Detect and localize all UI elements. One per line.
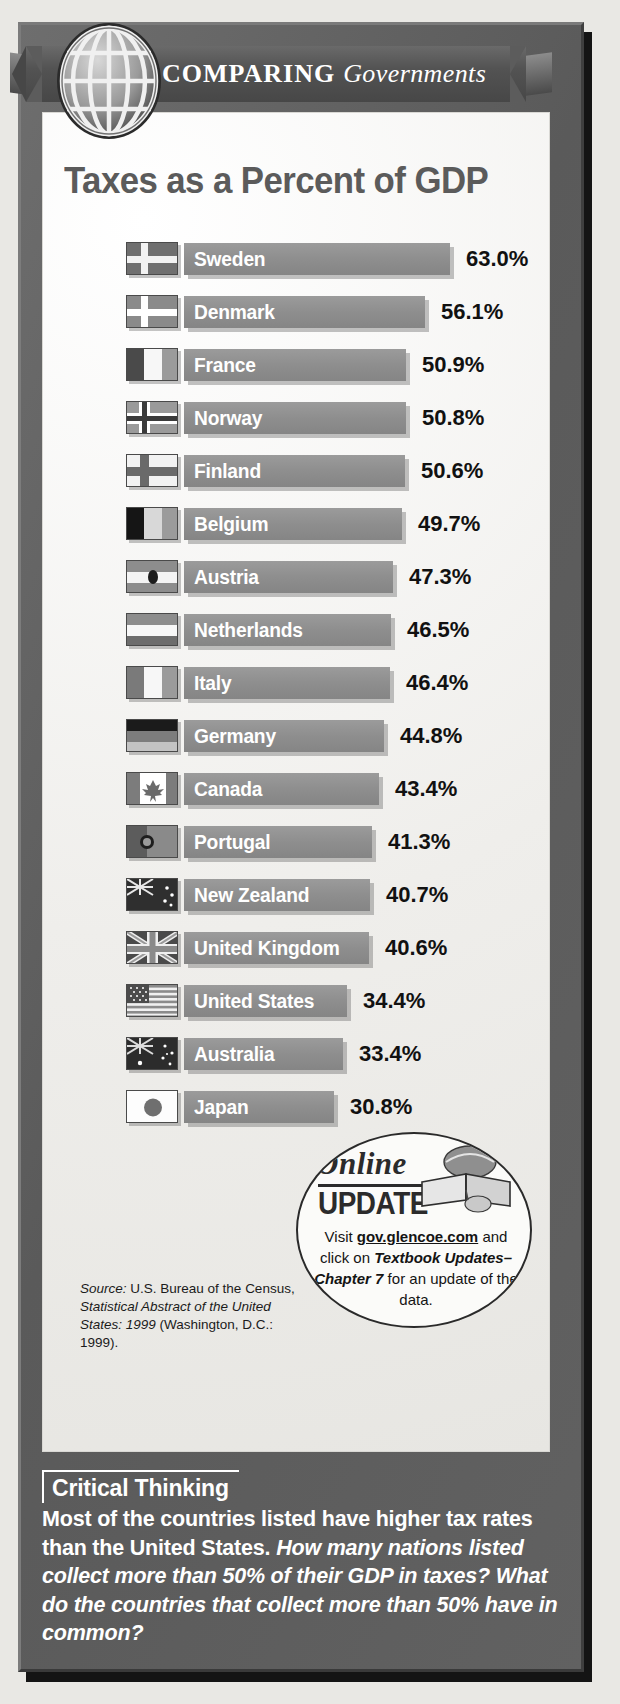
value-label: 46.4% — [406, 667, 468, 699]
source-note: Source: U.S. Bureau of the Census, Stati… — [80, 1280, 295, 1352]
country-label: Portugal — [194, 826, 270, 858]
value-label: 34.4% — [363, 985, 425, 1017]
flag-new-zealand-icon — [126, 878, 178, 911]
bar-chart: Sweden63.0%Denmark56.1%France50.9%Norway… — [42, 237, 550, 1138]
flag-finland-icon — [126, 454, 178, 487]
bar-row: Australia33.4% — [42, 1032, 550, 1085]
bar-row: Japan30.8% — [42, 1085, 550, 1138]
value-label: 40.7% — [386, 879, 448, 911]
country-label: Norway — [194, 402, 262, 434]
country-label: Sweden — [194, 243, 265, 275]
value-label: 50.6% — [421, 455, 483, 487]
value-label: 30.8% — [350, 1091, 412, 1123]
bar-row: United States34.4% — [42, 979, 550, 1032]
online-update-online-word: Online — [316, 1146, 407, 1182]
country-label: Germany — [194, 720, 276, 752]
flag-japan-icon — [126, 1090, 178, 1123]
value-label: 47.3% — [409, 561, 471, 593]
country-label: United Kingdom — [194, 932, 340, 964]
flag-austria-icon — [126, 560, 178, 593]
value-label: 44.8% — [400, 720, 462, 752]
flag-portugal-icon — [126, 825, 178, 858]
flag-germany-icon — [126, 719, 178, 752]
country-label: Canada — [194, 773, 262, 805]
country-label: New Zealand — [194, 879, 309, 911]
country-label: Belgium — [194, 508, 268, 540]
value-label: 49.7% — [418, 508, 480, 540]
country-label: Japan — [194, 1091, 249, 1123]
banner-title-sub: Governments — [343, 59, 486, 89]
banner-title: COMPARING Governments — [162, 46, 512, 102]
ribbon-tail-right — [526, 52, 552, 96]
country-label: France — [194, 349, 256, 381]
bar-row: Norway50.8% — [42, 396, 550, 449]
globe-icon — [53, 20, 165, 142]
bar-row: United Kingdom40.6% — [42, 926, 550, 979]
value-label: 40.6% — [385, 932, 447, 964]
flag-denmark-icon — [126, 295, 178, 328]
page-title: Taxes as a Percent of GDP — [64, 160, 488, 202]
online-update-badge[interactable]: Online UPDATE Visit gov.glencoe.com and … — [296, 1132, 532, 1328]
ou-text-post: for an update of the data. — [383, 1270, 517, 1308]
source-line2-plain: Census, — [245, 1281, 295, 1296]
open-book-icon — [416, 1144, 516, 1216]
country-label: Netherlands — [194, 614, 303, 646]
glencoe-link[interactable]: gov.glencoe.com — [357, 1228, 478, 1245]
bar-row: Germany44.8% — [42, 714, 550, 767]
value-label: 50.8% — [422, 402, 484, 434]
flag-italy-icon — [126, 666, 178, 699]
bar-row: New Zealand40.7% — [42, 873, 550, 926]
source-label: Source: — [80, 1281, 127, 1296]
online-update-update-word: UPDATE — [318, 1186, 428, 1222]
flag-netherlands-icon — [126, 613, 178, 646]
value-label: 41.3% — [388, 826, 450, 858]
ou-text-pre: Visit — [325, 1228, 357, 1245]
bar-row: Netherlands46.5% — [42, 608, 550, 661]
value-label: 56.1% — [441, 296, 503, 328]
banner-title-main: COMPARING — [162, 59, 335, 89]
ribbon-notch-left — [26, 46, 42, 102]
ribbon-notch-right — [510, 46, 526, 102]
bar-row: Italy46.4% — [42, 661, 550, 714]
source-line2-italic: Statistical Abstract — [80, 1299, 191, 1314]
country-label: United States — [194, 985, 314, 1017]
country-label: Finland — [194, 455, 261, 487]
flag-canada-icon — [126, 772, 178, 805]
bar-row: Canada43.4% — [42, 767, 550, 820]
flag-france-icon — [126, 348, 178, 381]
source-line1: U.S. Bureau of the — [127, 1281, 242, 1296]
value-label: 63.0% — [466, 243, 528, 275]
country-label: Australia — [194, 1038, 274, 1070]
flag-sweden-icon — [126, 242, 178, 275]
country-label: Austria — [194, 561, 259, 593]
country-label: Italy — [194, 667, 231, 699]
value-label: 43.4% — [395, 773, 457, 805]
bar-row: Finland50.6% — [42, 449, 550, 502]
bar-row: Denmark56.1% — [42, 290, 550, 343]
critical-thinking-headline: Critical Thinking — [42, 1470, 239, 1503]
bar-row: Belgium49.7% — [42, 502, 550, 555]
critical-thinking-section: Critical Thinking Most of the countries … — [28, 1462, 574, 1662]
bar-row: Sweden63.0% — [42, 237, 550, 290]
country-label: Denmark — [194, 296, 275, 328]
critical-thinking-body: Most of the countries listed have higher… — [42, 1505, 560, 1648]
value-label: 46.5% — [407, 614, 469, 646]
flag-belgium-icon — [126, 507, 178, 540]
flag-united-states-icon — [126, 984, 178, 1017]
bar-row: Portugal41.3% — [42, 820, 550, 873]
bar-row: Austria47.3% — [42, 555, 550, 608]
online-update-text: Visit gov.glencoe.com and click on Textb… — [310, 1226, 522, 1310]
value-label: 33.4% — [359, 1038, 421, 1070]
flag-norway-icon — [126, 401, 178, 434]
flag-australia-icon — [126, 1037, 178, 1070]
comparing-governments-poster: COMPARING Governments Taxes — [18, 22, 584, 1677]
bar-row: France50.9% — [42, 343, 550, 396]
flag-united-kingdom-icon — [126, 931, 178, 964]
value-label: 50.9% — [422, 349, 484, 381]
